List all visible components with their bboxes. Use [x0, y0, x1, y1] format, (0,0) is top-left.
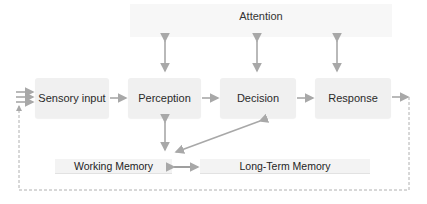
feedback-loop — [19, 97, 409, 190]
connectors — [0, 0, 427, 204]
arrow-decision-working — [176, 121, 260, 152]
